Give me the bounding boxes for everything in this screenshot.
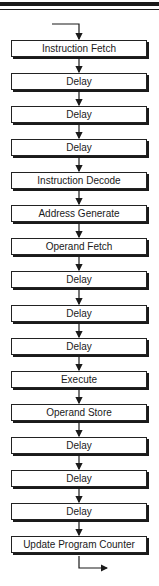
- step-delay-7: Delay: [11, 437, 147, 454]
- step-instruction-decode: Instruction Decode: [11, 172, 147, 189]
- step-delay-8: Delay: [11, 470, 147, 487]
- step-delay-5: Delay: [11, 305, 147, 322]
- step-delay-2: Delay: [11, 106, 147, 123]
- step-operand-store: Operand Store: [11, 404, 147, 421]
- step-delay-6: Delay: [11, 338, 147, 355]
- step-execute: Execute: [11, 371, 147, 388]
- exit-arrow-icon: [79, 556, 107, 568]
- step-operand-fetch: Operand Fetch: [11, 238, 147, 255]
- step-instruction-fetch: Instruction Fetch: [11, 40, 147, 57]
- flowchart: Instruction Fetch Delay Delay Delay Inst…: [0, 0, 159, 586]
- step-delay-3: Delay: [11, 139, 147, 156]
- step-delay-4: Delay: [11, 271, 147, 288]
- step-delay-1: Delay: [11, 73, 147, 90]
- step-address-generate: Address Generate: [11, 205, 147, 222]
- entry-arrow-icon: [52, 24, 79, 39]
- step-delay-9: Delay: [11, 503, 147, 520]
- step-update-program-counter: Update Program Counter: [11, 536, 147, 553]
